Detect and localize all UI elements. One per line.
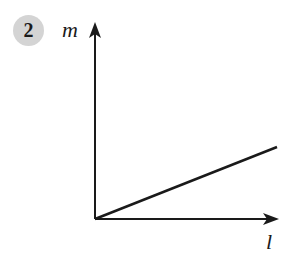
chart-svg: m l bbox=[0, 0, 302, 260]
y-axis-label: m bbox=[62, 17, 78, 42]
data-line bbox=[95, 147, 277, 219]
x-axis bbox=[95, 213, 279, 225]
x-axis-label: l bbox=[266, 229, 272, 254]
y-axis bbox=[89, 22, 101, 219]
